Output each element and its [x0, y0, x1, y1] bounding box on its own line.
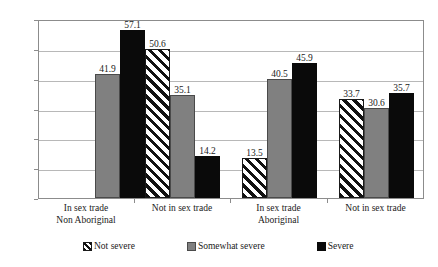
bar-not-severe-group-2: 50.6: [145, 49, 170, 198]
legend-item-not-severe: Not severe: [83, 241, 135, 251]
bar-somewhat-severe-group-2: 35.1: [170, 95, 195, 199]
bar-severe-group-1: 57.1: [120, 30, 145, 198]
x-super-label-non-aboriginal: Non Aboriginal: [38, 215, 134, 227]
legend-swatch-somewhat-severe-icon: [187, 242, 196, 251]
legend-label-somewhat-severe: Somewhat severe: [198, 241, 265, 251]
legend-swatch-not-severe-icon: [83, 242, 92, 251]
x-group-label-2: Not in sex trade: [134, 203, 230, 215]
x-group-label-4: Not in sex trade: [327, 203, 424, 215]
bar-value-label: 33.7: [343, 89, 360, 99]
bar-somewhat-severe-group-1: 41.9: [95, 74, 120, 198]
bar-severe-group-2: 14.2: [195, 156, 220, 198]
bar-value-label: 40.5: [271, 69, 288, 79]
x-group-label-3: In sex trade: [230, 203, 327, 215]
bar-severe-group-4: 35.7: [389, 93, 414, 198]
y-tick-mark: [34, 199, 38, 200]
bar-somewhat-severe-group-3: 40.5: [267, 79, 292, 199]
bar-severe-group-3: 45.9: [292, 63, 317, 198]
bar-value-label: 50.6: [149, 39, 166, 49]
bar-value-label: 41.9: [99, 64, 116, 74]
x-group-label-1: In sex trade: [38, 203, 134, 215]
bar-value-label: 13.5: [246, 148, 263, 158]
legend-label-severe: Severe: [328, 241, 354, 251]
bar-not-severe-group-3: 13.5: [242, 158, 267, 198]
bar-value-label: 45.9: [296, 53, 313, 63]
legend-label-not-severe: Not severe: [94, 241, 135, 251]
bar-value-label: 30.6: [368, 98, 385, 108]
bar-value-label: 57.1: [124, 20, 141, 30]
legend-item-severe: Severe: [317, 241, 354, 251]
legend-item-somewhat-severe: Somewhat severe: [187, 241, 265, 251]
bar-value-label: 35.7: [393, 83, 410, 93]
bar-value-label: 14.2: [199, 146, 216, 156]
gridline: [39, 51, 423, 52]
legend-swatch-severe-icon: [317, 242, 326, 251]
bar-value-label: 35.1: [174, 85, 191, 95]
chart-legend: Not severe Somewhat severe Severe: [38, 238, 424, 254]
x-super-label-aboriginal: Aboriginal: [230, 215, 327, 227]
bar-chart: 60 50 40 30 20 10 0 41.9 57.1: [0, 0, 438, 267]
bar-somewhat-severe-group-4: 30.6: [364, 108, 389, 198]
plot-inner: 41.9 57.1 50.6 35.1 14.2 13.5 40.5: [39, 21, 423, 198]
plot-area: 41.9 57.1 50.6 35.1 14.2 13.5 40.5: [38, 20, 424, 199]
bar-not-severe-group-4: 33.7: [339, 99, 364, 198]
